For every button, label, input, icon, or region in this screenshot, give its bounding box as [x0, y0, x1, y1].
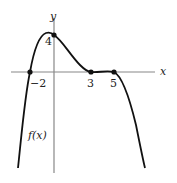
tick-label-5: 5: [110, 78, 117, 89]
y-axis-label: y: [50, 11, 56, 22]
x-axis-label: x: [160, 66, 166, 77]
tick-label-neg2: −2: [30, 78, 46, 89]
tick-label-4: 4: [45, 36, 52, 47]
graph-canvas: [0, 0, 177, 183]
curve-label: f(x): [28, 130, 47, 141]
point-0-4: [51, 32, 56, 37]
point-5-0: [111, 69, 116, 74]
function-curve: [18, 33, 145, 168]
point-3-0: [88, 69, 93, 74]
tick-label-3: 3: [87, 78, 94, 89]
point-neg2-0: [27, 69, 32, 74]
